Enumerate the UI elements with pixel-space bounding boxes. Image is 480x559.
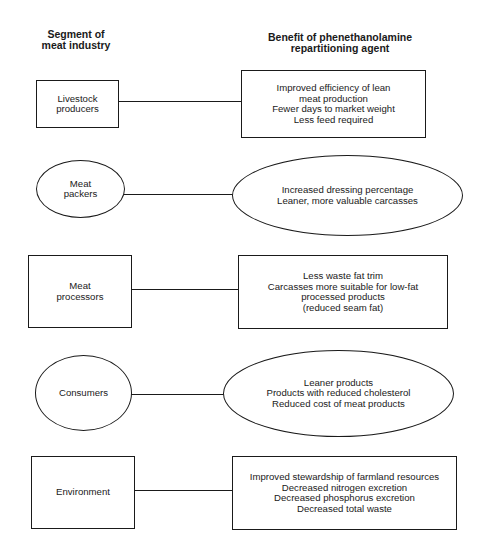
segment-node-environment: Environment bbox=[31, 456, 135, 529]
connector-line bbox=[131, 289, 239, 290]
benefit-node-environment: Improved stewardship of farmland resourc… bbox=[232, 456, 457, 530]
segment-node-meat-packers: Meat packers bbox=[36, 160, 125, 218]
benefit-node-consumers: Leaner products Products with reduced ch… bbox=[223, 350, 454, 437]
benefit-node-livestock-producers: Improved efficiency of lean meat product… bbox=[241, 70, 426, 138]
segment-node-meat-processors: Meat processors bbox=[28, 255, 132, 328]
connector-line bbox=[134, 490, 233, 491]
segment-node-livestock-producers: Livestock producers bbox=[36, 80, 119, 128]
benefit-node-meat-packers: Increased dressing percentage Leaner, mo… bbox=[232, 155, 463, 236]
connector-line bbox=[119, 101, 241, 102]
connector-line bbox=[131, 394, 224, 395]
segment-column-header: Segment of meat industry bbox=[20, 29, 132, 51]
segment-node-consumers: Consumers bbox=[35, 355, 132, 431]
figure-caption-cutoff bbox=[0, 552, 240, 559]
connector-line bbox=[124, 194, 233, 195]
benefit-column-header: Benefit of phenethanolamine repartitioni… bbox=[250, 32, 430, 54]
benefit-node-meat-processors: Less waste fat trim Carcasses more suita… bbox=[238, 255, 448, 329]
